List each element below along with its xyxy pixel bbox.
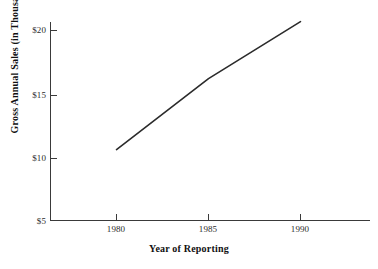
data-line-gross-annual-sales bbox=[117, 22, 301, 150]
y-tick-label-20: $20 bbox=[24, 25, 46, 35]
chart-plot-area bbox=[0, 0, 378, 269]
line-chart: $20 $15 $10 $5 1980 1985 1990 Year of Re… bbox=[0, 0, 378, 269]
x-axis-title: Year of Reporting bbox=[0, 243, 378, 254]
y-tick-label-5: $5 bbox=[24, 216, 46, 226]
y-tick-label-10: $10 bbox=[24, 153, 46, 163]
x-tick-label-1985: 1985 bbox=[199, 224, 217, 234]
x-tick-label-1980: 1980 bbox=[107, 224, 125, 234]
x-tick-label-1990: 1990 bbox=[291, 224, 309, 234]
y-tick-label-15: $15 bbox=[24, 90, 46, 100]
y-axis-title: Gross Annual Sales (in Thousands) bbox=[9, 0, 20, 156]
